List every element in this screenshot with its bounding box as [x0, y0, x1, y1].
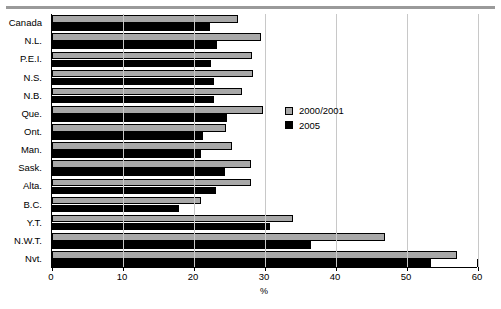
bar-alta-20002001 — [52, 179, 251, 187]
bar-sask-20002001 — [52, 160, 251, 168]
legend-item: 2005 — [285, 121, 344, 131]
bar-nvt-20002001 — [52, 251, 457, 259]
category-label-sask: Sask. — [18, 163, 42, 173]
category-label-alta: Alta. — [23, 181, 42, 191]
gridline — [123, 14, 124, 267]
bar-pei-2005 — [52, 60, 211, 68]
legend-item: 2000/2001 — [285, 106, 344, 116]
x-axis-tick-label: 40 — [320, 272, 350, 282]
category-label-ont: Ont. — [24, 127, 42, 137]
category-label-que: Que. — [21, 109, 42, 119]
x-axis-tick-label: 60 — [462, 272, 492, 282]
bar-ns-20002001 — [52, 70, 253, 78]
header-rule — [6, 6, 495, 9]
bar-pei-20002001 — [52, 52, 252, 60]
bar-yt-20002001 — [52, 215, 293, 223]
category-label-nvt: Nvt. — [25, 254, 42, 264]
x-axis-tick-label: 10 — [107, 272, 137, 282]
category-label-bc: B.C. — [24, 200, 42, 210]
bar-bc-2005 — [52, 205, 179, 213]
category-label-nl: N.L. — [25, 36, 42, 46]
gridline — [407, 14, 408, 267]
chart-legend: 2000/20012005 — [285, 106, 344, 135]
bar-canada-20002001 — [52, 15, 238, 23]
gridline — [194, 14, 195, 267]
category-label-yt: Y.T. — [27, 218, 42, 228]
category-label-pei: P.E.I. — [20, 54, 42, 64]
x-axis-tick-label: 50 — [391, 272, 421, 282]
category-axis-labels: CanadaN.L.P.E.I.N.S.N.B.Que.Ont.Man.Sask… — [0, 14, 47, 268]
bar-nl-20002001 — [52, 33, 261, 41]
bar-nvt-2005 — [52, 259, 431, 267]
bar-man-20002001 — [52, 142, 232, 150]
x-axis-tick-label: 0 — [36, 272, 66, 282]
bar-nb-20002001 — [52, 88, 242, 96]
bar-canada-2005 — [52, 23, 210, 31]
gridline — [336, 14, 337, 267]
bar-ns-2005 — [52, 78, 214, 86]
bar-nwt-2005 — [52, 241, 311, 249]
legend-label: 2000/2001 — [299, 106, 344, 116]
bar-bc-20002001 — [52, 197, 201, 205]
category-label-man: Man. — [21, 145, 42, 155]
bar-que-2005 — [52, 114, 227, 122]
bar-alta-2005 — [52, 187, 216, 195]
bar-sask-2005 — [52, 168, 225, 176]
bar-que-20002001 — [52, 106, 263, 114]
category-label-canada: Canada — [9, 18, 42, 28]
legend-label: 2005 — [299, 121, 320, 131]
category-label-nwt: N.W.T. — [14, 236, 42, 246]
category-label-ns: N.S. — [24, 73, 42, 83]
bar-nb-2005 — [52, 96, 214, 104]
bar-yt-2005 — [52, 223, 270, 231]
gridline — [478, 14, 479, 267]
x-axis-tick-label: 30 — [249, 272, 279, 282]
bar-chart: CanadaN.L.P.E.I.N.S.N.B.Que.Ont.Man.Sask… — [0, 0, 501, 309]
x-axis-tick-label: 20 — [178, 272, 208, 282]
bar-man-2005 — [52, 150, 201, 158]
legend-swatch-icon — [285, 107, 293, 115]
x-axis-end-tick — [477, 259, 478, 267]
x-axis-title: % — [249, 287, 279, 296]
plot-area — [51, 14, 477, 268]
bar-nl-2005 — [52, 41, 217, 49]
category-label-nb: N.B. — [24, 91, 42, 101]
bar-ont-20002001 — [52, 124, 226, 132]
legend-swatch-icon — [285, 121, 293, 129]
gridline — [265, 14, 266, 267]
bar-ont-2005 — [52, 132, 203, 140]
